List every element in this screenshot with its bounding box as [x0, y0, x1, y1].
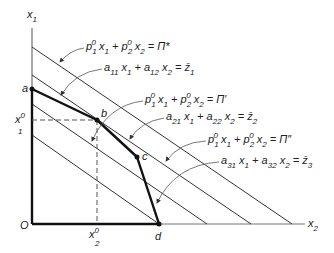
- vertex-c-label: c: [142, 150, 148, 162]
- vertex-c-dot: [135, 155, 140, 160]
- equation-pi-star: p10 x1 + p20 x2 = Π*: [85, 38, 170, 56]
- equation-constraint-2: a21 x1 + a22 x2 = z̄2: [166, 110, 258, 126]
- x2-zero-sub: 2: [94, 239, 100, 248]
- x1-zero-label: x0: [14, 111, 26, 125]
- vertex-b-label: b: [101, 107, 107, 119]
- leader-pi-double-prime: [166, 141, 206, 161]
- equation-constraint-3: a31 x1 + a32 x2 = z̄3: [221, 154, 313, 170]
- leader-constraint-2: [130, 118, 164, 139]
- horizontal-axis-label: x2: [307, 217, 319, 233]
- leader-pi-star: [60, 48, 84, 62]
- x1-zero-sub: 1: [18, 127, 22, 136]
- linear-programming-diagram: x1 x2 O x0 1 x0 2 a b c d p10 x1 + p20 x…: [0, 0, 334, 253]
- vertex-d-dot: [157, 222, 162, 227]
- vertex-d-label: d: [155, 230, 162, 242]
- equation-pi-prime: p10 x1 + p20 x2 = Π′: [144, 91, 227, 109]
- feasible-region-boundary: [32, 89, 159, 224]
- equation-pi-double-prime: p10 x1 + p20 x2 = Π″: [207, 131, 292, 149]
- equation-constraint-1: a11 x1 + a12 x2 = z̄1: [104, 61, 195, 77]
- x2-zero-label: x0: [88, 226, 100, 240]
- vertex-a-dot: [30, 87, 35, 92]
- origin-label: O: [20, 219, 29, 231]
- leader-constraint-1: [61, 69, 102, 95]
- vertex-a-label: a: [22, 82, 28, 94]
- vertex-b-dot: [95, 118, 100, 123]
- vertical-axis-label: x1: [26, 8, 37, 24]
